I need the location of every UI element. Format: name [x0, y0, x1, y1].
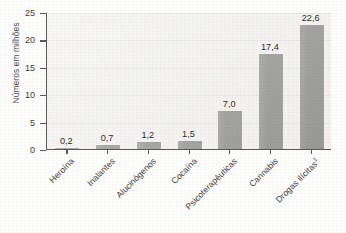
- bar: [96, 145, 120, 149]
- y-axis-tick-label: 0: [0, 145, 35, 155]
- bar: [259, 54, 283, 149]
- gridline: [47, 13, 331, 14]
- bar-value-label: 17,4: [261, 42, 279, 52]
- gridline: [47, 40, 331, 41]
- bar-value-label: 22,6: [302, 13, 320, 23]
- y-axis-tick: [40, 68, 46, 69]
- x-axis-tick: [66, 150, 67, 154]
- bar-value-label: 1,2: [141, 130, 154, 140]
- x-axis-category-label: Cocaína: [169, 156, 199, 186]
- x-axis-tick: [229, 150, 230, 154]
- y-axis-tick-label: 15: [0, 63, 35, 73]
- bar-value-label: 7,0: [223, 99, 236, 109]
- x-axis-tick: [270, 150, 271, 154]
- x-axis-category-label: Cannabis: [247, 156, 280, 189]
- bar-value-label: 1,5: [182, 129, 195, 139]
- bar: [178, 141, 202, 149]
- footnote-marker: 1: [311, 156, 318, 163]
- y-axis-tick: [40, 40, 46, 41]
- gridline: [47, 123, 331, 124]
- bar: [55, 148, 79, 149]
- y-axis-tick-label: 25: [0, 8, 35, 18]
- gridline: [47, 95, 331, 96]
- y-axis-tick: [40, 150, 46, 151]
- gridline: [47, 68, 331, 69]
- x-axis-category-label: Heroína: [47, 156, 76, 185]
- x-axis-tick: [189, 150, 190, 154]
- bar-value-label: 0,2: [60, 136, 73, 146]
- x-axis-tick: [148, 150, 149, 154]
- y-axis-tick-label: 5: [0, 118, 35, 128]
- y-axis-tick: [40, 13, 46, 14]
- bar: [137, 142, 161, 149]
- x-axis-category-label: Drogas ilícitas1: [273, 156, 322, 205]
- bar-chart-figure: Números em milhões 0510152025 HeroínaIna…: [0, 0, 346, 233]
- x-axis-tick: [107, 150, 108, 154]
- x-axis-category-label: Alucinógenos: [114, 156, 158, 200]
- bar-value-label: 0,7: [101, 133, 114, 143]
- x-axis-category-label: Inalantes: [85, 156, 117, 188]
- x-axis-tick: [311, 150, 312, 154]
- y-axis-tick-label: 10: [0, 90, 35, 100]
- bar: [218, 111, 242, 149]
- bar: [300, 25, 324, 149]
- y-axis-tick: [40, 123, 46, 124]
- y-axis-tick-label: 20: [0, 35, 35, 45]
- y-axis-tick: [40, 95, 46, 96]
